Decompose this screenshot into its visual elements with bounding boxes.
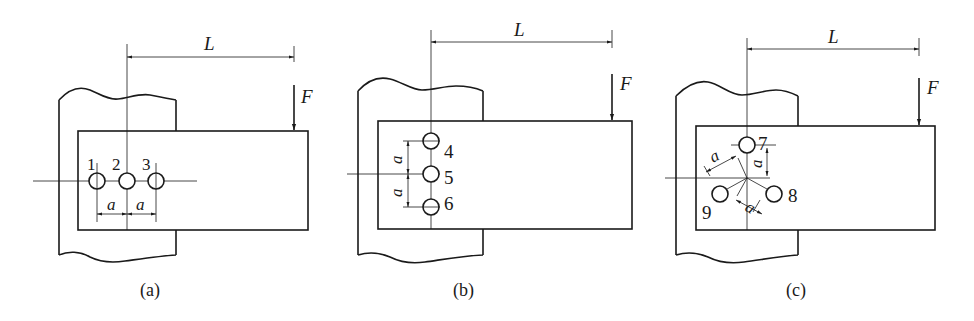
bracket-plate: [78, 131, 308, 230]
label-a: a: [136, 195, 145, 214]
label-a: a: [387, 156, 406, 165]
bolted-joint-diagram: L F 1 2 3 a a (a) L F: [0, 0, 974, 321]
panel-c: L F 7 8 9 a a a (c): [665, 26, 939, 301]
panel-b: L F 4 5 6 a a (b): [347, 19, 632, 301]
support-column: [676, 82, 798, 263]
bolt-8: [766, 186, 782, 202]
label-a: a: [107, 195, 116, 214]
panel-a: L F 1 2 3 a a (a): [33, 33, 313, 301]
bolt-label-3: 3: [142, 155, 151, 174]
bolt-7: [739, 137, 755, 153]
bolt-label-7: 7: [758, 133, 768, 154]
bolt-label-1: 1: [87, 155, 96, 174]
bolt-label-5: 5: [444, 167, 454, 188]
label-a: a: [742, 197, 759, 218]
bolt-9: [712, 186, 728, 202]
label-F: F: [619, 73, 632, 94]
caption-b: (b): [453, 280, 474, 301]
label-L: L: [827, 26, 839, 47]
bolt-5: [423, 166, 439, 182]
label-a: a: [387, 189, 406, 198]
bolt-label-2: 2: [112, 155, 121, 174]
bolt-label-4: 4: [444, 141, 454, 162]
bolt-label-6: 6: [444, 193, 454, 214]
caption-a: (a): [140, 280, 160, 301]
bolt-label-8: 8: [788, 185, 798, 206]
label-F: F: [300, 86, 313, 107]
bolt-2: [119, 173, 135, 189]
support-column: [358, 78, 483, 263]
label-L: L: [203, 33, 215, 54]
label-L: L: [513, 19, 525, 40]
caption-c: (c): [786, 280, 806, 301]
label-a: a: [706, 146, 722, 167]
bracket-plate: [378, 121, 632, 229]
bolt-label-9: 9: [702, 202, 712, 223]
label-F: F: [926, 77, 939, 98]
label-a: a: [747, 160, 766, 169]
